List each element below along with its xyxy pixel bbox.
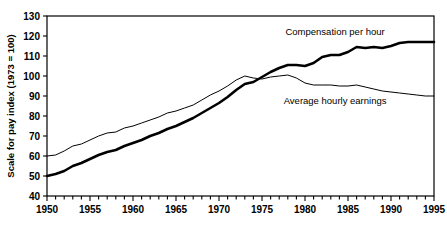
y-tick-label: 120 — [23, 31, 40, 42]
y-tick-label: 40 — [29, 191, 41, 202]
data-series-group — [47, 42, 434, 176]
x-tick-label: 1995 — [423, 204, 446, 215]
x-tick-label: 1965 — [165, 204, 188, 215]
x-tick-label: 1970 — [208, 204, 231, 215]
x-tick-label: 1950 — [36, 204, 59, 215]
y-tick-label: 60 — [29, 151, 41, 162]
pay-index-line-chart: 405060708090100110120130 195019551960196… — [0, 0, 447, 231]
x-tick-label: 1975 — [251, 204, 274, 215]
y-axis: 405060708090100110120130 — [23, 11, 47, 202]
plot-frame — [47, 16, 434, 196]
y-tick-label: 50 — [29, 171, 41, 182]
x-tick-label: 1980 — [294, 204, 317, 215]
x-tick-label: 1955 — [79, 204, 102, 215]
series-annotation-0: Compensation per hour — [285, 26, 384, 37]
series-line-0 — [47, 42, 434, 176]
series-annotation-1: Average hourly earnings — [284, 95, 387, 106]
y-tick-label: 90 — [29, 91, 41, 102]
y-axis-title: Scale for pay index (1973 = 100) — [5, 34, 16, 177]
x-axis: 1950195519601965197019751980198519901995 — [36, 196, 446, 215]
x-tick-label: 1990 — [380, 204, 403, 215]
y-tick-label: 100 — [23, 71, 40, 82]
chart-canvas: 405060708090100110120130 195019551960196… — [0, 0, 447, 231]
y-tick-label: 80 — [29, 111, 41, 122]
x-tick-label: 1960 — [122, 204, 145, 215]
y-tick-label: 130 — [23, 11, 40, 22]
x-tick-label: 1985 — [337, 204, 360, 215]
y-tick-label: 110 — [24, 51, 41, 62]
plot-border — [47, 16, 434, 196]
y-tick-label: 70 — [29, 131, 41, 142]
